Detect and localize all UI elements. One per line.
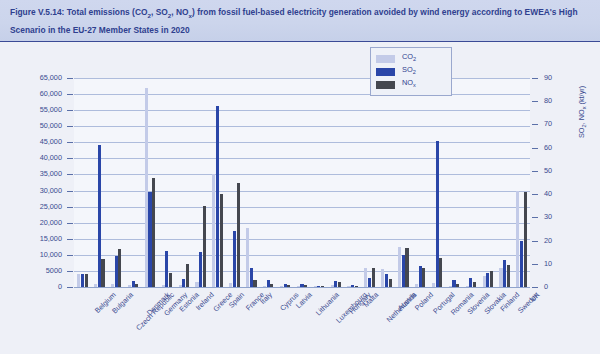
bar-group xyxy=(432,78,442,287)
y-axis-left-tick xyxy=(67,239,73,240)
bar-co2 xyxy=(145,88,148,287)
bar-group xyxy=(263,78,273,287)
bar-group xyxy=(449,78,459,287)
bar-nox xyxy=(203,206,206,287)
legend-swatch-co2 xyxy=(376,55,395,63)
y-axis-left-tick-label: 20,000 xyxy=(40,219,62,226)
bar-group xyxy=(483,78,493,287)
x-axis-baseline xyxy=(74,287,530,288)
y-axis-left-tick-label: 45,000 xyxy=(40,138,62,145)
y-axis-right-tick xyxy=(532,148,538,149)
bar-nox xyxy=(85,274,88,287)
bar-nox xyxy=(169,273,172,287)
bar-so2 xyxy=(503,260,506,287)
bar-nox xyxy=(220,194,223,287)
legend-swatch-nox xyxy=(376,81,395,89)
y-axis-left-title: CO2 (kt/yr) xyxy=(0,107,1,142)
bar-nox xyxy=(490,271,493,287)
bar-so2 xyxy=(216,106,219,287)
y-axis-right-tick xyxy=(532,264,538,265)
y-axis-left-tick-label: 65,000 xyxy=(40,74,62,81)
bar-group xyxy=(398,78,408,287)
bar-nox xyxy=(118,249,121,287)
bar-so2 xyxy=(419,266,422,287)
bar-co2 xyxy=(212,174,215,287)
y-axis-left-tick xyxy=(67,255,73,256)
bar-group xyxy=(246,78,256,287)
bar-so2 xyxy=(199,252,202,287)
bar-so2 xyxy=(148,192,151,287)
y-axis-left-tick-label: 5000 xyxy=(46,267,62,274)
bar-group xyxy=(195,78,205,287)
bar-so2 xyxy=(267,280,270,287)
y-axis-right-title: SO2, NOx (kt/yr) xyxy=(578,86,588,138)
chart-legend: CO2SO2NOx xyxy=(370,47,452,96)
y-axis-right-tick xyxy=(532,171,538,172)
legend-label-so2: SO2 xyxy=(402,66,416,76)
bar-group xyxy=(331,78,341,287)
bar-group xyxy=(145,78,155,287)
y-axis-left-tick xyxy=(67,158,73,159)
bar-so2 xyxy=(469,278,472,287)
bar-so2 xyxy=(233,231,236,287)
bar-so2 xyxy=(436,141,439,287)
figure-caption-band: Figure V.5.14: Total emissions (CO2, SO2… xyxy=(0,0,600,42)
bar-so2 xyxy=(250,268,253,287)
bar-group xyxy=(415,78,425,287)
bar-group xyxy=(364,78,374,287)
y-axis-left-tick xyxy=(67,126,73,127)
bar-co2 xyxy=(483,276,486,287)
legend-label-nox: NOx xyxy=(402,79,416,89)
legend-item-co2: CO2 xyxy=(376,52,445,65)
bar-nox xyxy=(372,268,375,287)
legend-item-so2: SO2 xyxy=(376,65,445,78)
bar-group xyxy=(466,78,476,287)
y-axis-left-tick xyxy=(67,191,73,192)
plot-area xyxy=(74,78,530,287)
y-axis-right-tick-label: 90 xyxy=(544,74,552,81)
y-axis-right-tick-label: 40 xyxy=(544,190,552,197)
bar-co2 xyxy=(499,268,502,287)
bar-group xyxy=(229,78,239,287)
bar-group xyxy=(77,78,87,287)
y-axis-left-tick-label: 60,000 xyxy=(40,90,62,97)
y-axis-left-tick-label: 30,000 xyxy=(40,187,62,194)
y-axis-left-tick xyxy=(67,94,73,95)
legend-item-nox: NOx xyxy=(376,78,445,91)
bar-nox xyxy=(152,178,155,287)
bar-so2 xyxy=(165,251,168,287)
bar-nox xyxy=(439,258,442,287)
bar-co2 xyxy=(364,268,367,287)
y-axis-right-tick-label: 80 xyxy=(544,97,552,104)
chart-figure: CO2 (kt/yr) SO2, NOx (kt/yr) CO2SO2NOx 0… xyxy=(0,42,600,354)
y-axis-right-tick-label: 70 xyxy=(544,120,552,127)
y-axis-right-tick xyxy=(532,78,538,79)
legend-label-co2: CO2 xyxy=(402,53,416,63)
bar-nox xyxy=(253,280,256,287)
y-axis-right-tick-label: 30 xyxy=(544,213,552,220)
bar-so2 xyxy=(520,241,523,287)
bar-co2 xyxy=(381,269,384,287)
bar-co2 xyxy=(516,191,519,287)
bar-group xyxy=(162,78,172,287)
bar-so2 xyxy=(402,255,405,288)
bar-so2 xyxy=(452,280,455,287)
bar-so2 xyxy=(115,256,118,287)
bar-nox xyxy=(186,264,189,287)
bar-nox xyxy=(389,279,392,287)
bar-co2 xyxy=(77,274,80,287)
y-axis-right-tick xyxy=(532,194,538,195)
bar-nox xyxy=(405,248,408,287)
bar-nox xyxy=(524,192,527,287)
bar-group xyxy=(499,78,509,287)
y-axis-left-tick xyxy=(67,207,73,208)
y-axis-right-tick-label: 20 xyxy=(544,237,552,244)
bar-nox xyxy=(237,183,240,288)
bar-group xyxy=(111,78,121,287)
bar-nox xyxy=(422,268,425,287)
y-axis-right-tick-label: 0 xyxy=(544,283,548,290)
bar-group xyxy=(314,78,324,287)
y-axis-left-tick-label: 0 xyxy=(58,283,62,290)
bar-nox xyxy=(101,259,104,287)
bar-so2 xyxy=(368,278,371,287)
